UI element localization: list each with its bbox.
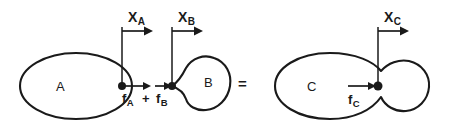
contact-point-c-dot <box>374 82 383 91</box>
equals-operator: = <box>238 76 247 91</box>
force-a-arrow-head <box>143 82 151 90</box>
force-a-symbol: f <box>122 91 126 106</box>
position-marker-c-subscript: C <box>394 16 401 27</box>
body-b-label: B <box>204 76 213 89</box>
position-marker-a-subscript: A <box>138 16 145 27</box>
free-body-diagram: A B C XA XB XC fA + fB = fC <box>0 0 452 133</box>
position-marker-a-label: XA <box>128 10 145 24</box>
body-a-label: A <box>56 80 65 93</box>
force-b-subscript: B <box>161 97 168 108</box>
contact-point-a-dot <box>118 82 126 90</box>
position-marker-c-symbol: X <box>384 9 393 25</box>
body-a-outline <box>20 53 132 119</box>
body-c-label: C <box>307 80 317 93</box>
position-marker-a-symbol: X <box>128 9 137 25</box>
force-c-symbol: f <box>348 92 352 107</box>
position-marker-b-symbol: X <box>178 9 187 25</box>
position-marker-b-subscript: B <box>188 16 195 27</box>
position-marker-b-label: XB <box>178 10 195 24</box>
position-marker-c-arrow-head <box>400 27 409 36</box>
force-b-label: fB <box>156 92 167 105</box>
position-marker-b-arrow-head <box>194 27 203 36</box>
force-c-subscript: C <box>353 98 360 109</box>
position-marker-c-label: XC <box>384 10 401 24</box>
force-c-label: fC <box>348 93 359 106</box>
body-b-outline <box>172 56 230 110</box>
force-a-subscript: A <box>127 97 134 108</box>
position-marker-a-arrow-head <box>144 27 153 36</box>
force-b-symbol: f <box>156 91 160 106</box>
plus-operator: + <box>142 92 150 105</box>
force-a-label: fA <box>122 92 133 105</box>
contact-point-b-dot <box>168 82 176 90</box>
